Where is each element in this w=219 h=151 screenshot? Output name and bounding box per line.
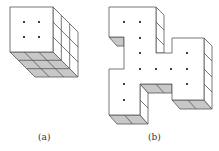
caption-b: (b) xyxy=(148,132,161,142)
figure-a-cube xyxy=(10,7,78,77)
caption-a: (a) xyxy=(38,132,50,142)
diagram-canvas xyxy=(0,0,219,151)
figure-b-prism xyxy=(109,7,212,124)
